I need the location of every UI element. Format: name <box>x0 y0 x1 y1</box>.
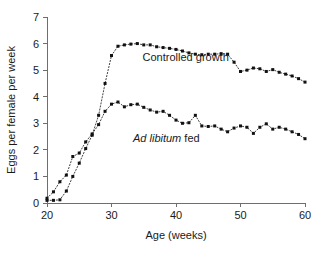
data-point <box>84 147 87 150</box>
data-point <box>58 180 61 183</box>
data-point <box>304 137 307 140</box>
data-point <box>200 124 203 127</box>
chart-canvas: 012345672030405060 Controlled growthAd l… <box>0 0 323 253</box>
data-point <box>142 43 145 46</box>
data-point <box>258 67 261 70</box>
data-point <box>271 68 274 71</box>
data-point <box>278 126 281 129</box>
data-point <box>110 103 113 106</box>
series-label-1: Controlled growth <box>143 51 229 63</box>
data-point <box>187 121 190 124</box>
data-point <box>52 199 55 202</box>
data-point <box>220 128 223 131</box>
data-point <box>71 175 74 178</box>
series-annotations: Controlled growthAd libitum fed <box>132 51 229 145</box>
series-line <box>47 44 305 201</box>
y-tick-label-5: 5 <box>33 64 39 76</box>
axes <box>47 17 305 203</box>
data-point <box>233 127 236 130</box>
data-point <box>297 133 300 136</box>
data-point <box>284 128 287 131</box>
x-tick-label-20: 20 <box>41 209 53 221</box>
data-point <box>58 198 61 201</box>
series-label-plain-part: fed <box>181 132 199 144</box>
data-point <box>91 132 94 135</box>
data-point <box>123 105 126 108</box>
data-point <box>97 123 100 126</box>
data-point <box>265 122 268 125</box>
data-point <box>297 77 300 80</box>
data-point <box>46 197 49 200</box>
data-point <box>116 45 119 48</box>
data-point <box>194 114 197 117</box>
data-point <box>116 101 119 104</box>
y-tick-label-7: 7 <box>33 11 39 23</box>
data-point <box>78 152 81 155</box>
data-point <box>78 162 81 165</box>
data-point <box>245 126 248 129</box>
data-point <box>123 43 126 46</box>
data-point <box>155 111 158 114</box>
series-label-italic-part: Ad libitum <box>132 132 181 144</box>
data-point <box>71 155 74 158</box>
data-point <box>213 124 216 127</box>
x-axis-title: Age (weeks) <box>145 229 206 241</box>
series-label-plain-part: Controlled growth <box>143 51 229 63</box>
data-point <box>104 110 107 113</box>
data-point <box>104 82 107 85</box>
data-point <box>65 174 68 177</box>
x-tick-label-50: 50 <box>234 209 246 221</box>
data-point <box>84 140 87 143</box>
data-point <box>245 69 248 72</box>
data-point <box>168 47 171 50</box>
data-point <box>258 126 261 129</box>
y-tick-label-3: 3 <box>33 117 39 129</box>
tick-labels: 012345672030405060 <box>33 11 311 221</box>
data-point <box>226 130 229 133</box>
y-tick-label-4: 4 <box>33 91 39 103</box>
data-point <box>155 45 158 48</box>
data-point <box>52 190 55 193</box>
data-point <box>278 71 281 74</box>
x-tick-label-60: 60 <box>299 209 311 221</box>
data-point <box>162 110 165 113</box>
data-point <box>136 42 139 45</box>
data-point <box>175 119 178 122</box>
data-series <box>46 42 307 202</box>
data-point <box>207 125 210 128</box>
data-point <box>291 74 294 77</box>
data-point <box>252 132 255 135</box>
x-tick-label-40: 40 <box>170 209 182 221</box>
y-tick-label-1: 1 <box>33 170 39 182</box>
x-tick-label-30: 30 <box>105 209 117 221</box>
data-point <box>149 43 152 46</box>
data-point <box>162 46 165 49</box>
data-point <box>252 67 255 70</box>
data-point <box>239 70 242 73</box>
data-point <box>149 109 152 112</box>
data-point <box>233 61 236 64</box>
data-point <box>239 124 242 127</box>
data-point <box>129 43 132 46</box>
data-point <box>284 73 287 76</box>
data-point <box>181 122 184 125</box>
data-point <box>291 130 294 133</box>
series-label-2: Ad libitum fed <box>132 132 200 144</box>
series-line <box>47 102 305 198</box>
series-1 <box>46 42 307 202</box>
data-point <box>271 128 274 131</box>
data-point <box>110 54 113 57</box>
data-point <box>304 81 307 84</box>
data-point <box>265 70 268 73</box>
y-tick-label-0: 0 <box>33 197 39 209</box>
data-point <box>142 106 145 109</box>
y-tick-label-2: 2 <box>33 144 39 156</box>
data-point <box>129 103 132 106</box>
data-point <box>65 190 68 193</box>
y-tick-label-6: 6 <box>33 38 39 50</box>
tick-marks <box>43 17 305 207</box>
data-point <box>136 103 139 106</box>
y-axis-title: Eggs per female per week <box>5 46 17 174</box>
data-point <box>168 114 171 117</box>
data-point <box>97 114 100 117</box>
